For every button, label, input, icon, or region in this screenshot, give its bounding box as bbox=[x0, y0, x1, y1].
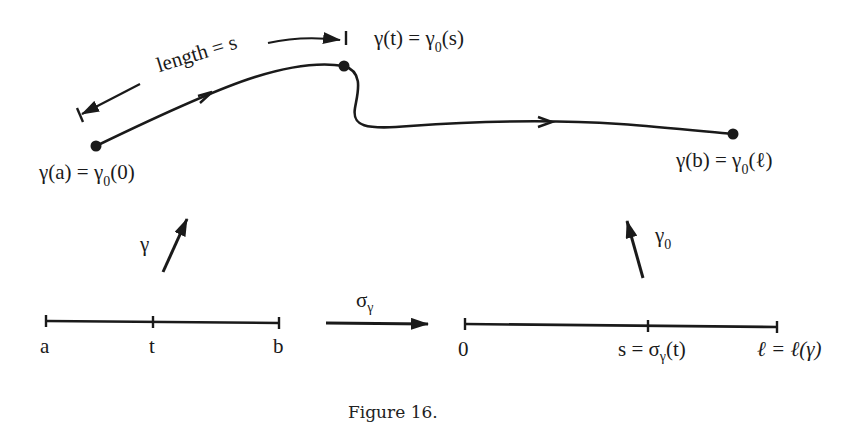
length-bar-left bbox=[77, 108, 83, 122]
sigma-map-label: σγ bbox=[356, 290, 374, 311]
gamma-symbol: γ bbox=[140, 232, 149, 256]
start-point-lhs: γ(a) = γ bbox=[39, 160, 103, 184]
tick-s-main: s = σ bbox=[618, 337, 660, 361]
left-tick-label-a: a bbox=[40, 336, 49, 357]
length-arrow-left bbox=[82, 84, 140, 114]
end-point-lhs: γ(b) = γ bbox=[676, 148, 741, 172]
tick-a-text: a bbox=[40, 334, 49, 358]
start-point-rhs: (0) bbox=[110, 160, 135, 184]
tick-s-sub: γ bbox=[660, 349, 666, 364]
right-tick-label-s: s = σγ(t) bbox=[618, 339, 686, 360]
mid-point-label: γ(t) = γ0(s) bbox=[374, 28, 464, 49]
gamma0-map-label: γ0 bbox=[655, 225, 671, 246]
gamma-map-label: γ bbox=[140, 234, 149, 255]
gamma0-symbol: γ bbox=[655, 223, 664, 247]
tick-t-text: t bbox=[149, 334, 155, 358]
left-interval-line bbox=[46, 321, 279, 323]
length-arrow-right bbox=[268, 38, 340, 43]
mid-point-lhs: γ(t) = γ bbox=[374, 26, 435, 50]
figure-caption: Figure 16. bbox=[348, 404, 438, 421]
mid-point-rhs: (s) bbox=[442, 26, 464, 50]
tick-b-text: b bbox=[273, 334, 284, 358]
gamma0-sub: 0 bbox=[664, 237, 671, 252]
gamma-map-arrow bbox=[163, 219, 187, 272]
sigma-sub: γ bbox=[367, 300, 373, 315]
end-point-sub: 0 bbox=[741, 162, 748, 177]
start-point-sub: 0 bbox=[103, 174, 110, 189]
tick-0-text: 0 bbox=[458, 337, 469, 361]
mid-point-sub: 0 bbox=[435, 40, 442, 55]
caption-text: Figure 16. bbox=[348, 402, 438, 422]
sigma-map-arrow bbox=[326, 323, 428, 324]
end-point-dot bbox=[728, 129, 739, 140]
figure-16: length = s γ(t) = γ0(s) γ(a) = γ0(0) γ(b… bbox=[0, 0, 859, 443]
end-point-rhs: (ℓ) bbox=[748, 148, 772, 172]
tick-l-text: ℓ = ℓ(γ) bbox=[757, 337, 821, 361]
right-tick-label-l: ℓ = ℓ(γ) bbox=[757, 339, 821, 360]
start-point-label: γ(a) = γ0(0) bbox=[39, 162, 135, 183]
right-tick-label-0: 0 bbox=[458, 339, 469, 360]
end-point-label: γ(b) = γ0(ℓ) bbox=[676, 150, 772, 171]
curve-gamma bbox=[96, 64, 733, 146]
left-tick-label-t: t bbox=[149, 336, 155, 357]
sigma-symbol: σ bbox=[356, 288, 367, 312]
mid-point-dot bbox=[339, 61, 350, 72]
left-tick-label-b: b bbox=[273, 336, 284, 357]
right-interval-line bbox=[465, 324, 777, 327]
gamma0-map-arrow bbox=[627, 221, 643, 278]
start-point-dot bbox=[91, 141, 102, 152]
diagram-canvas bbox=[0, 0, 859, 443]
tick-s-end: (t) bbox=[666, 337, 686, 361]
